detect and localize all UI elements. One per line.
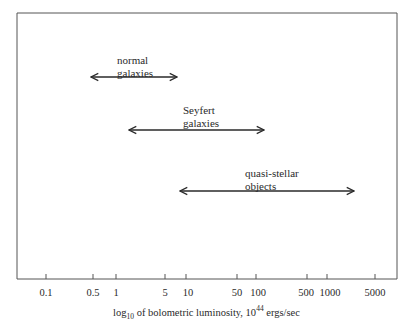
- x-tick-label: 1000: [320, 287, 341, 298]
- label-line: normal: [117, 54, 153, 67]
- label-line: objects: [245, 180, 299, 193]
- x-tick-label: 500: [298, 287, 314, 298]
- plot-frame: [17, 13, 397, 279]
- x-axis-title: log10 of bolometric luminosity, 1044 erg…: [0, 304, 413, 321]
- quasar-label: quasi-stellar objects: [245, 167, 299, 193]
- x-axis-title-exponent: 44: [256, 304, 264, 313]
- x-tick-label: 50: [232, 287, 243, 298]
- x-tick-label: 0.5: [86, 287, 99, 298]
- normal-galaxies-label: normal galaxies: [117, 54, 153, 80]
- seyfert-galaxies-label: Seyfert galaxies: [183, 104, 219, 130]
- x-tick-label: 10: [183, 287, 194, 298]
- x-tick-label: 100: [250, 287, 266, 298]
- x-tick-label: 5: [162, 287, 167, 298]
- label-line: quasi-stellar: [245, 167, 299, 180]
- x-axis-title-subscript: 10: [127, 312, 135, 321]
- x-tick-label: 0.1: [39, 287, 52, 298]
- x-tick-label: 5000: [365, 287, 386, 298]
- x-axis-title-middle: of bolometric luminosity, 10: [134, 307, 256, 318]
- x-axis-ticks: [46, 274, 375, 279]
- x-tick-label: 1: [113, 287, 118, 298]
- diagram-canvas: [0, 0, 413, 321]
- label-line: galaxies: [183, 117, 219, 130]
- x-axis-title-suffix: ergs/sec: [264, 307, 300, 318]
- label-line: Seyfert: [183, 104, 219, 117]
- label-line: galaxies: [117, 67, 153, 80]
- x-axis-title-prefix: log: [113, 307, 126, 318]
